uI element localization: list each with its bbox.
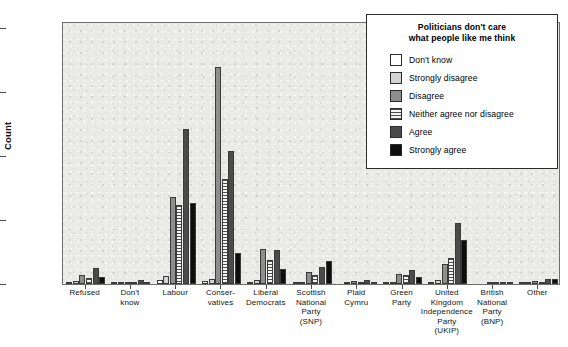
bar-neither-agree-nor-disagree (86, 278, 92, 284)
bar-neither-agree-nor-disagree (358, 282, 364, 284)
bar-strongly-disagree (254, 280, 260, 284)
x-tick-mark (447, 285, 448, 289)
bar-dont-know (519, 282, 525, 284)
x-axis-label-line: (SNP) (274, 317, 348, 327)
bar-group (66, 21, 105, 284)
bar-strongly-disagree (118, 282, 124, 284)
bar-neither-agree-nor-disagree (312, 275, 318, 284)
x-tick-mark (85, 285, 86, 289)
legend-item-label: Strongly disagree (409, 73, 478, 83)
bar-chart-figure: Count 400 300 200 100 0 RefusedDon'tknow… (0, 0, 568, 347)
legend-item-agree: Agree (390, 124, 548, 140)
swatch-black-icon (390, 144, 402, 156)
x-tick-mark (220, 285, 221, 289)
y-axis-title: Count (2, 122, 13, 150)
bar-agree (183, 129, 189, 284)
y-tick-mark (0, 156, 6, 157)
bar-strongly-disagree (163, 276, 169, 284)
legend-item-neither: Neither agree nor disagree (390, 106, 548, 122)
bar-agree (138, 280, 144, 284)
legend-item-label: Neither agree nor disagree (409, 109, 514, 119)
bar-disagree (170, 197, 176, 284)
legend-title: Politicians don't care what people like … (376, 22, 548, 44)
bar-strongly-agree (552, 279, 558, 285)
x-axis-label-line: Party (274, 307, 348, 317)
bar-dont-know (247, 282, 253, 284)
legend-item-disagree: Disagree (390, 88, 548, 104)
legend-item-label: Don't know (409, 55, 452, 65)
swatch-dark-grey-icon (390, 126, 402, 138)
bar-strongly-agree (507, 282, 513, 284)
bar-strongly-disagree (209, 279, 215, 285)
bar-strongly-disagree (435, 280, 441, 284)
bar-strongly-agree (144, 282, 150, 284)
bar-strongly-disagree (525, 282, 531, 284)
x-tick-mark (492, 285, 493, 289)
bar-disagree (442, 264, 448, 284)
bar-dont-know (293, 282, 299, 284)
bar-group (247, 21, 286, 284)
bar-strongly-disagree (299, 282, 305, 284)
x-axis-label-line: (BNP) (455, 317, 529, 327)
x-tick-mark (311, 285, 312, 289)
bar-group (293, 21, 332, 284)
bar-dont-know (66, 282, 72, 284)
legend-title-line-1: Politicians don't care (376, 22, 548, 33)
legend-item-label: Strongly agree (409, 145, 466, 155)
y-tick-mark (0, 92, 6, 93)
bar-agree (500, 282, 506, 284)
bar-agree (455, 223, 461, 284)
bar-neither-agree-nor-disagree (403, 275, 409, 284)
bar-strongly-agree (371, 282, 377, 284)
x-tick-mark (402, 285, 403, 289)
y-tick-mark (0, 284, 6, 285)
y-tick-mark (0, 28, 6, 29)
x-axis-labels: RefusedDon'tknowLabourConser-vativesLibe… (0, 288, 568, 347)
bar-neither-agree-nor-disagree (267, 260, 273, 284)
x-axis-label-line: National (455, 298, 529, 308)
legend-item-label: Agree (409, 127, 432, 137)
bar-dont-know (111, 282, 117, 284)
x-axis-label-line: (UKIP) (410, 326, 484, 336)
bar-agree (93, 268, 99, 285)
bar-strongly-agree (235, 253, 241, 284)
bar-group (111, 21, 150, 284)
bar-neither-agree-nor-disagree (176, 205, 182, 285)
y-tick-mark (0, 220, 6, 221)
x-axis-label: Other (500, 288, 568, 298)
legend-item-strongly-disagree: Strongly disagree (390, 70, 548, 86)
bar-dont-know (383, 282, 389, 284)
bar-group (202, 21, 241, 284)
bar-strongly-agree (99, 277, 105, 284)
x-tick-mark (356, 285, 357, 289)
bar-strongly-disagree (344, 282, 350, 284)
bar-dont-know (428, 282, 434, 284)
bar-agree (545, 279, 551, 285)
x-axis-label-line: Party (455, 307, 529, 317)
bar-disagree (79, 275, 85, 284)
bar-strongly-agree (190, 203, 196, 284)
legend-item-strongly-agree: Strongly agree (390, 142, 548, 158)
legend-title-line-2: what people like me think (376, 33, 548, 44)
bar-neither-agree-nor-disagree (222, 179, 228, 284)
bar-agree (364, 280, 370, 284)
bar-agree (409, 270, 415, 284)
swatch-mid-grey-icon (390, 90, 402, 102)
x-axis-label-line: Other (500, 288, 568, 298)
bar-neither-agree-nor-disagree (448, 258, 454, 284)
bar-disagree (396, 274, 402, 284)
bar-strongly-agree (326, 261, 332, 284)
swatch-light-grey-icon (390, 72, 402, 84)
bar-strongly-agree (416, 277, 422, 284)
legend-box: Politicians don't care what people like … (366, 14, 558, 169)
bar-dont-know (202, 281, 208, 284)
bar-strongly-disagree (390, 282, 396, 284)
bar-group (157, 21, 196, 284)
bar-disagree (125, 282, 131, 284)
bar-dont-know (157, 280, 163, 284)
bar-neither-agree-nor-disagree (539, 282, 545, 284)
bar-neither-agree-nor-disagree (131, 282, 137, 284)
x-axis-label-line: know (93, 298, 167, 308)
bar-disagree (306, 272, 312, 284)
bar-strongly-agree (461, 240, 467, 284)
